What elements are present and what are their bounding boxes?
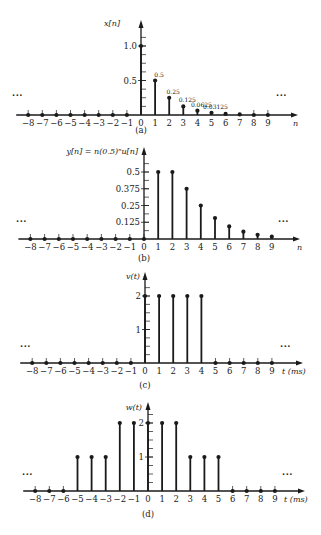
x-axis-label: t (ms) <box>282 367 306 376</box>
ellipsis-right: ··· <box>278 216 289 226</box>
x-tick-label: −1 <box>121 118 134 128</box>
stem-marker <box>202 455 206 459</box>
x-tick-label: 1 <box>155 242 160 252</box>
x-tick-label: 7 <box>241 242 246 252</box>
x-tick-label: 8 <box>258 494 263 504</box>
ellipsis-left: ··· <box>16 216 27 226</box>
panel-caption: (c) <box>139 380 150 390</box>
panel-caption: (d) <box>142 509 154 519</box>
x-tick-label: −1 <box>124 242 137 252</box>
x-tick-label: 7 <box>241 366 246 376</box>
y-tick-label: 0.5 <box>123 76 137 86</box>
stem-marker <box>224 112 228 116</box>
stem-marker <box>129 361 133 365</box>
stem-marker <box>252 113 256 117</box>
x-tick-label: 6 <box>223 118 228 128</box>
stem-marker <box>209 111 213 115</box>
x-tick-label: −6 <box>53 242 66 252</box>
x-axis-label: t (ms) <box>284 495 308 504</box>
stem-marker <box>146 421 150 425</box>
stem-marker <box>61 489 65 493</box>
stem-marker <box>241 230 245 234</box>
x-tick-label: −5 <box>67 242 80 252</box>
x-tick-label: 4 <box>195 118 200 128</box>
x-tick-label: −2 <box>111 366 124 376</box>
y-axis-label: w(t) <box>126 403 142 412</box>
panel-a-xn-stem-plot: 1.00.5x[n]−8−7−6−5−4−3−2−101234567890.50… <box>12 19 298 135</box>
stem-marker <box>142 237 146 241</box>
x-tick-label: −6 <box>50 118 63 128</box>
x-tick-label: 0 <box>141 242 146 252</box>
y-tick-label: 1.0 <box>123 41 137 51</box>
x-tick-label: −4 <box>82 366 95 376</box>
stem-marker <box>115 361 119 365</box>
x-tick-label: 3 <box>184 242 189 252</box>
x-tick-label: 0 <box>145 494 150 504</box>
stem-marker <box>139 44 143 48</box>
x-tick-label: 3 <box>181 118 186 128</box>
x-tick-label: −5 <box>68 366 81 376</box>
stem-marker <box>57 237 61 241</box>
x-tick-label: 7 <box>244 494 249 504</box>
ellipsis-right: ··· <box>276 90 287 100</box>
ellipsis-left: ··· <box>22 469 33 479</box>
stem-marker <box>157 294 161 298</box>
stem-marker <box>185 187 189 191</box>
stem-marker <box>199 203 203 207</box>
x-tick-label: 2 <box>173 494 178 504</box>
panel-d-wt-stem-plot: 21w(t)−8−7−6−5−4−3−2−10123456789t (ms)··… <box>22 402 308 519</box>
signal-figure: 1.00.5x[n]−8−7−6−5−4−3−2−101234567890.50… <box>0 0 321 535</box>
y-axis-arrow-icon <box>146 402 151 410</box>
stem-marker <box>87 361 91 365</box>
stem-marker <box>125 113 129 117</box>
stem-marker <box>266 113 270 117</box>
stem-marker <box>143 294 147 298</box>
stem-marker <box>90 455 94 459</box>
value-label: 0.5 <box>154 71 164 78</box>
y-axis-arrow-icon <box>143 272 148 280</box>
x-axis-label: n <box>293 119 298 128</box>
stem-marker <box>167 96 171 100</box>
stem-marker <box>228 361 232 365</box>
ellipsis-right: ··· <box>282 469 293 479</box>
panel-b-yn-stem-plot: 0.50.3750.250.125y[n] = n(0.5)ⁿu[n]−8−7−… <box>16 147 302 263</box>
stem-marker <box>104 455 108 459</box>
x-tick-label: −1 <box>128 494 141 504</box>
x-tick-label: 2 <box>170 242 175 252</box>
stem-marker <box>43 237 47 241</box>
stem-marker <box>256 361 260 365</box>
x-tick-label: 4 <box>198 242 203 252</box>
y-axis-label: y[n] = n(0.5)ⁿu[n] <box>65 147 138 156</box>
x-tick-label: 8 <box>251 118 256 128</box>
x-tick-label: 8 <box>255 366 260 376</box>
stem-marker <box>259 489 263 493</box>
stem-marker <box>114 237 118 241</box>
stem-marker <box>26 113 30 117</box>
x-tick-label: 6 <box>230 494 235 504</box>
stem-marker <box>71 237 75 241</box>
x-tick-label: 5 <box>212 242 217 252</box>
stem-marker <box>270 361 274 365</box>
stem-marker <box>245 489 249 493</box>
stem-marker <box>99 237 103 241</box>
x-tick-label: 4 <box>202 494 207 504</box>
x-tick-label: −8 <box>26 366 39 376</box>
x-axis-arrow-icon <box>298 489 305 494</box>
stem-marker <box>171 294 175 298</box>
stem-marker <box>28 237 32 241</box>
x-tick-label: 4 <box>199 366 204 376</box>
stem-marker <box>68 113 72 117</box>
x-tick-label: −6 <box>57 494 70 504</box>
ellipsis-left: ··· <box>20 341 31 351</box>
stem-marker <box>72 361 76 365</box>
x-tick-label: −7 <box>40 366 53 376</box>
stem-marker <box>213 361 217 365</box>
stem-marker <box>97 113 101 117</box>
x-tick-label: 1 <box>152 118 157 128</box>
x-tick-label: 1 <box>156 366 161 376</box>
x-tick-label: 5 <box>213 366 218 376</box>
x-axis-label: n <box>297 243 302 252</box>
x-tick-label: −4 <box>81 242 94 252</box>
x-tick-label: −5 <box>71 494 84 504</box>
stem-marker <box>33 489 37 493</box>
